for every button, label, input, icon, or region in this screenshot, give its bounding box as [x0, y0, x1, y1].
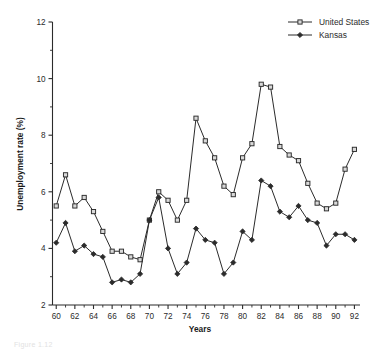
legend-label: Kansas: [319, 30, 347, 40]
data-point-marker-diamond: [100, 254, 105, 259]
x-tick-label: 72: [163, 312, 173, 321]
data-point-marker-diamond: [110, 280, 115, 285]
data-point-marker-square: [138, 258, 142, 262]
data-point-marker-diamond: [352, 237, 357, 242]
x-tick-label: 62: [70, 312, 80, 321]
series-united-states: [54, 82, 356, 262]
y-axis-ticks: [49, 22, 53, 305]
data-point-marker-diamond: [342, 232, 347, 237]
x-tick-label: 64: [89, 312, 99, 321]
data-point-marker-square: [287, 153, 291, 157]
data-point-marker-square: [222, 184, 226, 188]
x-tick-label: 88: [313, 312, 323, 321]
x-tick-label: 82: [257, 312, 267, 321]
data-point-marker-square: [157, 190, 161, 194]
x-tick-label: 70: [145, 312, 155, 321]
data-point-marker-diamond: [165, 246, 170, 251]
data-point-marker-diamond: [268, 184, 273, 189]
data-point-marker-diamond: [277, 209, 282, 214]
x-tick-label: 60: [52, 312, 62, 321]
data-point-marker-diamond: [63, 220, 68, 225]
data-series-layer: [54, 82, 357, 285]
data-point-marker-square: [203, 139, 207, 143]
data-point-marker-square: [91, 210, 95, 214]
x-tick-label: 68: [126, 312, 136, 321]
data-point-marker-square: [306, 181, 310, 185]
data-point-marker-diamond: [315, 220, 320, 225]
figure-caption: Figure 1.12: [14, 341, 53, 348]
x-tick-label: 92: [350, 312, 360, 321]
series-kansas: [54, 178, 357, 285]
data-point-marker-diamond: [259, 178, 264, 183]
x-tick-label: 84: [275, 312, 285, 321]
data-point-marker-square: [119, 249, 123, 253]
data-point-marker-diamond: [119, 277, 124, 282]
data-point-marker-square: [231, 193, 235, 197]
y-axis-title: Unemployment rate (%): [15, 117, 25, 211]
data-point-marker-square: [250, 142, 254, 146]
legend-item-united-states[interactable]: United States: [288, 17, 369, 27]
data-point-marker-diamond: [305, 218, 310, 223]
y-tick-label: 6: [41, 188, 46, 197]
data-point-marker-square: [129, 255, 133, 259]
x-axis-title: Years: [189, 324, 212, 334]
data-point-marker-square: [240, 156, 244, 160]
y-tick-label: 12: [36, 18, 46, 27]
x-tick-label: 90: [331, 312, 341, 321]
data-point-marker-square: [73, 204, 77, 208]
data-point-marker-square: [54, 204, 58, 208]
chart-legend: United StatesKansas: [288, 17, 369, 40]
data-point-marker-square: [63, 173, 67, 177]
figure-container: 12108642 6062646668707274767880828486889…: [0, 0, 378, 356]
x-axis-ticks: [56, 305, 354, 309]
data-point-marker-square: [175, 218, 179, 222]
x-tick-label: 78: [219, 312, 229, 321]
legend-item-kansas[interactable]: Kansas: [288, 30, 347, 40]
data-point-marker-square: [185, 198, 189, 202]
data-point-marker-square: [82, 195, 86, 199]
data-point-marker-square: [101, 229, 105, 233]
x-axis-tick-labels: 6062646668707274767880828486889092: [52, 312, 360, 321]
data-point-marker-square: [213, 156, 217, 160]
x-tick-label: 74: [182, 312, 192, 321]
data-point-marker-square: [324, 207, 328, 211]
data-point-marker-square: [298, 20, 302, 24]
data-point-marker-diamond: [212, 240, 217, 245]
data-point-marker-diamond: [54, 240, 59, 245]
data-point-marker-square: [194, 116, 198, 120]
y-tick-label: 4: [41, 244, 46, 253]
unemployment-line-chart: 12108642 6062646668707274767880828486889…: [0, 0, 378, 356]
x-tick-label: 80: [238, 312, 248, 321]
data-point-marker-square: [166, 198, 170, 202]
data-point-marker-square: [278, 144, 282, 148]
x-tick-label: 66: [108, 312, 118, 321]
y-tick-label: 2: [41, 301, 46, 310]
data-point-marker-square: [296, 159, 300, 163]
data-point-marker-square: [268, 85, 272, 89]
legend-label: United States: [319, 17, 369, 27]
x-tick-label: 86: [294, 312, 304, 321]
data-point-marker-square: [315, 201, 319, 205]
y-tick-label: 8: [41, 131, 46, 140]
data-point-marker-square: [334, 201, 338, 205]
y-tick-label: 10: [36, 75, 46, 84]
data-point-marker-square: [259, 82, 263, 86]
data-point-marker-square: [110, 249, 114, 253]
y-axis-tick-labels: 12108642: [36, 18, 46, 310]
data-point-marker-square: [352, 147, 356, 151]
data-point-marker-square: [343, 167, 347, 171]
data-point-marker-diamond: [297, 32, 302, 37]
data-point-marker-diamond: [156, 195, 161, 200]
x-tick-label: 76: [201, 312, 211, 321]
data-point-marker-diamond: [72, 249, 77, 254]
